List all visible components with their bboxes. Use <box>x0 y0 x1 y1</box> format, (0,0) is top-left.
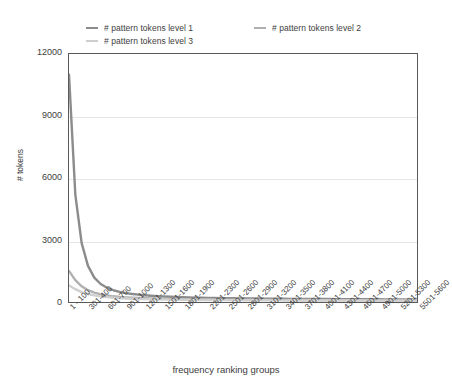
legend-swatch-level-2 <box>254 27 266 29</box>
y-axis-tick-label: 9000 <box>20 110 62 120</box>
legend-item-level-3: # pattern tokens level 3 <box>86 36 193 46</box>
legend-label-level-2: # pattern tokens level 2 <box>272 23 361 33</box>
legend-label-level-1: # pattern tokens level 1 <box>104 23 193 33</box>
x-axis-ticks: 1 - 100301-400601-700901-10001201-130015… <box>68 305 418 360</box>
plot-area <box>68 53 418 303</box>
legend-label-level-3: # pattern tokens level 3 <box>104 36 193 46</box>
legend-item-level-1: # pattern tokens level 1 <box>86 23 193 33</box>
y-axis-tick-label: 0 <box>20 297 62 307</box>
y-axis-tick-label: 12000 <box>20 47 62 57</box>
y-axis-tick-label: 6000 <box>20 172 62 182</box>
y-axis-title: # tokens <box>15 130 25 200</box>
y-axis-tick-label: 3000 <box>20 235 62 245</box>
chart-legend: # pattern tokens level 1 # pattern token… <box>0 10 452 44</box>
legend-swatch-level-1 <box>86 27 98 29</box>
series-line-1 <box>69 75 417 300</box>
legend-item-level-2: # pattern tokens level 2 <box>254 23 361 33</box>
legend-swatch-level-3 <box>86 40 98 42</box>
series-lines <box>69 54 417 302</box>
x-axis-title: frequency ranking groups <box>0 364 452 375</box>
